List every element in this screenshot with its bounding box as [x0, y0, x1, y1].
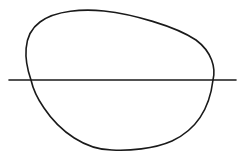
diagram-svg	[0, 0, 244, 158]
figure-canvas	[0, 0, 244, 158]
